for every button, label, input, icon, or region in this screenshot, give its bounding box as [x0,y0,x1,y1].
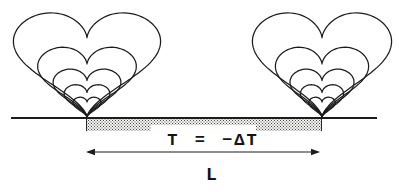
convection-vortex-diagram: T = −ΔT L [0,0,399,192]
vortex-contour [309,97,335,117]
vortex-contour [275,47,368,117]
figure-svg [0,0,399,192]
temperature-label: T = −ΔT [167,131,258,150]
vortex-contour [73,97,101,117]
right-vortex-contours [252,13,391,117]
vortex-contour [38,47,137,117]
vortex-contour [64,85,110,117]
arrowhead-right-icon [311,149,320,155]
vortex-contour [13,13,160,117]
left-vortex-contours [13,13,160,117]
vortex-contour [53,69,121,117]
arrowhead-left-icon [86,149,95,155]
cooled-strip [86,119,322,131]
vortex-contour [252,13,391,117]
vortex-contour [300,85,343,117]
length-label: L [206,165,218,185]
vortex-contour [290,69,354,117]
